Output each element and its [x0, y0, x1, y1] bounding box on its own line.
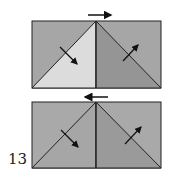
top-panel	[32, 15, 161, 88]
step-number: 13	[8, 150, 27, 168]
bottom-panel	[32, 97, 161, 168]
